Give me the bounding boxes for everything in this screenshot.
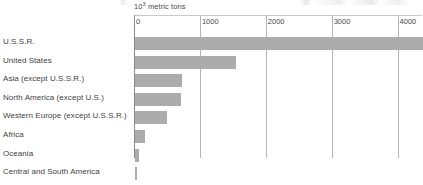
bar (135, 37, 423, 50)
tick-label-1000: 1000 (200, 17, 219, 26)
axis-unit-label: 103 metric tons (134, 2, 186, 11)
category-label: Oceania (3, 148, 131, 167)
bar-row (135, 129, 422, 148)
category-label: North America (except U.S.) (3, 92, 131, 111)
bar-series (135, 36, 422, 185)
bar (135, 130, 145, 143)
category-label: Africa (3, 129, 131, 148)
axis-top-rule (134, 15, 422, 16)
unit-label-base: 10 (134, 2, 143, 11)
plot-area: 01000200030004000 (134, 15, 422, 158)
tick-label-0: 0 (134, 17, 140, 26)
tick-label-2000: 2000 (266, 17, 285, 26)
category-label: United States (3, 55, 131, 74)
unit-label-rest: metric tons (146, 2, 186, 11)
scan-artifact-strip (0, 0, 422, 5)
category-label: Asia (except U.S.S.R.) (3, 73, 131, 92)
bar (135, 111, 167, 124)
tick-label-4000: 4000 (398, 17, 417, 26)
bar-row (135, 110, 422, 129)
category-label: Central and South America (3, 166, 131, 185)
bar (135, 56, 236, 69)
bar-row (135, 55, 422, 74)
bar-row (135, 36, 422, 55)
bar-row (135, 166, 422, 185)
bar-row (135, 148, 422, 167)
bar-row (135, 73, 422, 92)
bar (135, 167, 137, 180)
bar (135, 93, 181, 106)
tick-label-3000: 3000 (332, 17, 351, 26)
bar-row (135, 92, 422, 111)
category-axis-labels: U.S.S.R.United StatesAsia (except U.S.S.… (3, 36, 131, 185)
category-label: U.S.S.R. (3, 36, 131, 55)
bar (135, 74, 182, 87)
category-label: Western Europe (except U.S.S.R.) (3, 110, 131, 129)
bar (135, 149, 139, 162)
